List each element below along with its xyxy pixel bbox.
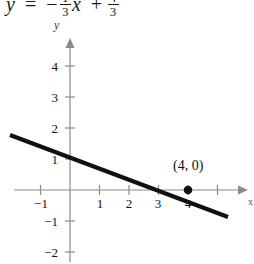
x-tick-label--1: −1	[30, 196, 52, 212]
x-axis-arrowhead	[238, 186, 248, 195]
x-tick-label-4: 4	[180, 196, 196, 212]
y-tick-label-4: 4	[44, 59, 58, 75]
x-tick-label-3: 3	[150, 196, 166, 212]
x-axis-label: x	[248, 196, 253, 207]
x-tick-label-2: 2	[121, 196, 137, 212]
x-tick-label-1: 1	[92, 196, 108, 212]
y-tick-label-3: 3	[44, 90, 58, 106]
graph-figure: y = −13x +43 y (4, 0)	[0, 0, 254, 264]
y-tick-label--1: −1	[36, 214, 58, 230]
y-tick-label-1: 1	[44, 152, 58, 168]
y-axis-arrowhead	[66, 38, 75, 48]
y-tick-label--2: −2	[36, 245, 58, 261]
x-intercept-point-marker	[184, 186, 193, 195]
y-tick-label-2: 2	[44, 121, 58, 137]
